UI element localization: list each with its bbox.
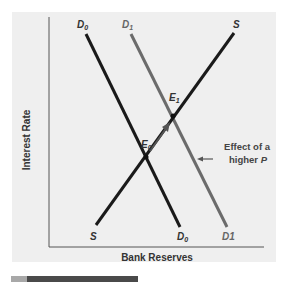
- label-e0: E0: [141, 139, 152, 151]
- label-e1: E1: [169, 92, 180, 104]
- label-s-bottom: S: [90, 231, 97, 242]
- bottom-bar: [11, 276, 138, 282]
- annotation-line-2: higher P: [229, 154, 268, 165]
- supply-demand-diagram: D0 D1 S S D0 D1 E0 E1 Effect of a higher…: [0, 0, 285, 284]
- annotation-arrow-head-icon: [197, 157, 203, 162]
- label-d1-top: D1: [122, 19, 133, 31]
- demand-curve-d0: [86, 34, 180, 227]
- annotation-line-1: Effect of a: [224, 141, 271, 152]
- equilibrium-point-e1: [171, 114, 176, 119]
- shift-arrow-e0-e1: [150, 127, 167, 151]
- label-d0-top: D0: [77, 19, 88, 31]
- label-d1-bottom: D1: [222, 231, 235, 242]
- x-axis-label: Bank Reserves: [121, 252, 193, 263]
- y-axis-label: Interest Rate: [21, 110, 32, 171]
- label-s-top: S: [233, 19, 240, 30]
- bottom-bar-lead: [11, 276, 27, 282]
- label-d0-bottom: D0: [177, 231, 188, 243]
- equilibrium-point-e0: [144, 155, 149, 160]
